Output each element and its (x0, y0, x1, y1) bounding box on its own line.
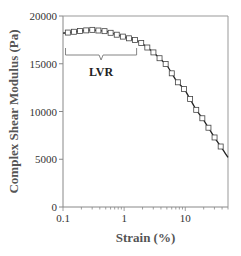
data-marker (212, 135, 217, 140)
data-marker (175, 80, 180, 85)
data-marker (114, 32, 119, 37)
lvr-label: LVR (89, 65, 114, 79)
x-tick-label: 1 (121, 212, 127, 224)
x-tick-labels: 0.1110 (56, 212, 191, 224)
data-marker (194, 107, 199, 112)
x-tick-label: 0.1 (56, 212, 70, 224)
y-tick-label: 5000 (35, 153, 58, 165)
data-marker (182, 87, 187, 92)
data-marker (145, 45, 150, 50)
y-tick-label: 15000 (30, 58, 58, 70)
data-marker (90, 27, 95, 32)
y-tick-label: 20000 (30, 10, 58, 22)
lvr-annotation: LVR (66, 48, 137, 79)
y-tick-labels: 05000100001500020000 (30, 10, 58, 213)
data-marker (206, 125, 211, 130)
x-axis-title: Strain (%) (116, 230, 176, 245)
data-marker (102, 29, 107, 34)
data-marker (84, 28, 89, 33)
data-marker (139, 41, 144, 46)
data-marker (96, 28, 101, 33)
data-marker (169, 71, 174, 76)
data-marker (120, 34, 125, 39)
data-marker (78, 28, 83, 33)
data-marker (65, 30, 70, 35)
y-axis-title: Complex Shear Modulus (Pa) (6, 29, 21, 193)
data-marker (163, 62, 168, 67)
data-marker (218, 144, 223, 149)
data-marker (126, 36, 131, 41)
data-marker (108, 30, 113, 35)
data-marker (151, 50, 156, 55)
data-marker (71, 29, 76, 34)
data-marker (133, 37, 138, 42)
y-tick-label: 10000 (30, 106, 58, 118)
x-tick-label: 10 (180, 212, 192, 224)
data-marker (200, 116, 205, 121)
lvr-bracket (66, 48, 137, 60)
data-marker (157, 56, 162, 61)
data-marker (188, 97, 193, 102)
chart: 05000100001500020000 0.1110 LVR Strain (… (0, 0, 241, 256)
